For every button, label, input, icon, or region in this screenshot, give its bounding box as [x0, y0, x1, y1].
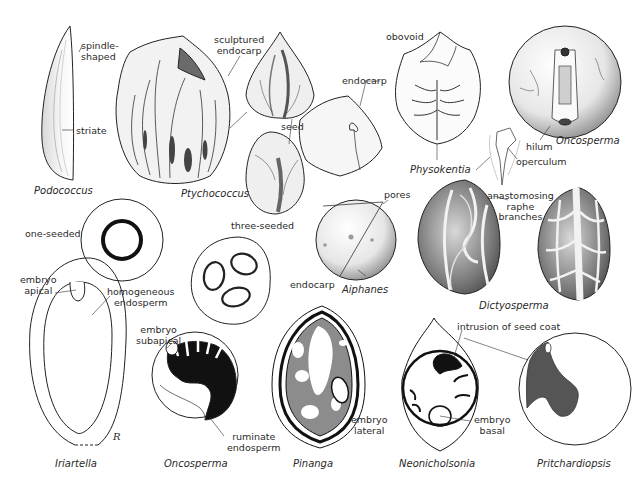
illustration-canvas	[0, 0, 639, 494]
label-embryo-subapical: embryo subapical	[136, 325, 181, 346]
taxon-dictyosperma: Dictyosperma	[479, 300, 549, 311]
label-embryo-basal: embryo basal	[474, 415, 510, 436]
label-three-seeded: three-seeded	[231, 221, 294, 232]
label-hilum: hilum	[526, 142, 553, 153]
label-one-seeded: one-seeded	[25, 229, 81, 240]
taxon-pritchardiopsis: Pritchardiopsis	[537, 458, 611, 469]
oncosperma-seed-top	[509, 26, 621, 138]
one-seeded-diagram	[81, 199, 163, 281]
label-endocarp-aiphanes: endocarp	[290, 280, 335, 291]
taxon-podococcus: Podococcus	[34, 185, 93, 196]
aiphanes-endocarp	[316, 200, 396, 280]
label-pores: pores	[384, 190, 410, 201]
label-intrusion-of-seed-coat: intrusion of seed coat	[457, 322, 560, 333]
physokentia-seed-obovoid	[396, 32, 481, 144]
pritchardiopsis-section	[519, 333, 631, 445]
label-anastomosing-raphe-branches: anastomosing raphe branches	[487, 191, 554, 223]
label-obovoid: obovoid	[386, 32, 424, 43]
label-endocarp-physokentia: endocarp	[342, 76, 387, 87]
label-ruminate-endosperm: ruminate endosperm	[227, 432, 281, 453]
label-seed: seed	[281, 122, 304, 133]
label-embryo-lateral: embryo lateral	[351, 415, 387, 436]
taxon-pinanga: Pinanga	[293, 458, 333, 469]
taxon-oncosperma-bottom: Oncosperma	[164, 458, 228, 469]
podococcus-fruit	[42, 26, 82, 180]
label-homogeneous-endosperm: homogeneous endosperm	[107, 287, 174, 308]
three-seeded-diagram	[191, 237, 270, 324]
taxon-neonicholsonia: Neonicholsonia	[399, 458, 475, 469]
taxon-physokentia: Physokentia	[410, 164, 471, 175]
label-sculptured-endocarp: sculptured endocarp	[214, 35, 264, 56]
label-embryo-apical: embryo apical	[20, 275, 56, 296]
taxon-iriartella: Iriartella	[55, 458, 97, 469]
ptychococcus-endocarp	[116, 36, 230, 184]
ptychococcus-seed-bottom	[246, 132, 304, 214]
taxon-aiphanes: Aiphanes	[342, 284, 388, 295]
neonicholsonia-section	[402, 318, 478, 451]
label-striate: striate	[76, 126, 107, 137]
physokentia-endocarp-front	[299, 96, 382, 176]
taxon-ptychococcus: Ptychococcus	[181, 188, 249, 199]
label-spindle-shaped: spindle- shaped	[81, 41, 119, 62]
label-artist-mark: R	[113, 432, 121, 443]
taxon-oncosperma-top: Oncosperma	[556, 135, 620, 146]
label-operculum: operculum	[516, 157, 567, 168]
